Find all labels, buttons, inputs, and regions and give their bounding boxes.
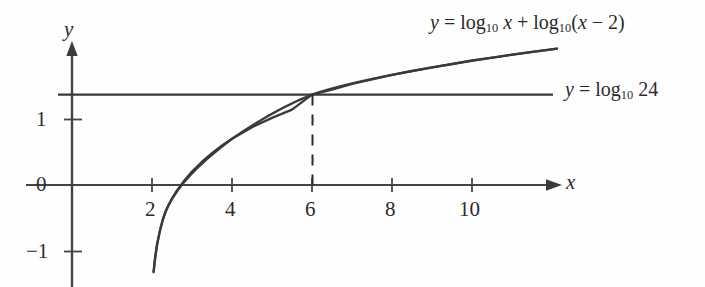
x-tick-label-6: 6: [305, 199, 316, 220]
plot-canvas: [0, 0, 705, 287]
curve-label-base-2: 10: [559, 21, 571, 35]
line-equation-label: y = log10 24: [565, 79, 658, 102]
x-axis: [26, 179, 562, 191]
curve-equation-label: y = log10 x + log10(x − 2): [430, 12, 625, 35]
y-tick-label-1: 1: [36, 109, 47, 130]
curve-label-equals: =: [444, 11, 455, 33]
y-axis: [66, 41, 77, 287]
x-tick-label-2: 2: [145, 199, 156, 220]
log-graph-figure: 1 0 −1 2 4 6 8 10 y x y = log10 x + log1…: [0, 0, 705, 287]
y-tick-label-neg1: −1: [26, 241, 48, 262]
x-tick-label-8: 8: [385, 199, 396, 220]
x-tick-label-10: 10: [459, 199, 480, 220]
y-axis-name: y: [64, 19, 73, 40]
log-curve-smooth: [154, 49, 557, 272]
line-label-argument: 24: [638, 78, 658, 100]
line-label-equals: =: [579, 78, 590, 100]
y-tick-label-0: 0: [36, 174, 47, 195]
x-axis-name: x: [566, 172, 575, 193]
curve-label-y: y: [430, 11, 439, 33]
x-axis-arrowhead: [546, 179, 562, 191]
line-label-y: y: [565, 78, 574, 100]
line-label-base: 10: [621, 88, 633, 102]
y-axis-arrowhead: [66, 41, 77, 56]
x-tick-label-4: 4: [225, 199, 236, 220]
curve-label-base-1: 10: [486, 21, 498, 35]
